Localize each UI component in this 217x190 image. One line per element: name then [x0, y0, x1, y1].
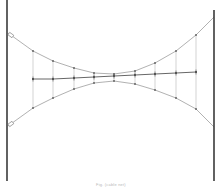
anchor-icons [8, 32, 14, 126]
node-marker [52, 60, 54, 62]
node-marker [175, 50, 177, 52]
node-marker [32, 50, 34, 52]
ties [33, 35, 196, 109]
nodes [32, 34, 197, 110]
node-marker [113, 80, 115, 82]
node-marker [154, 62, 156, 64]
lower-cable [8, 81, 214, 127]
node-marker [73, 67, 75, 69]
node-marker [93, 82, 95, 84]
node-marker [73, 88, 75, 90]
node-marker [32, 107, 34, 109]
node-marker [52, 97, 54, 99]
figure-caption: Fig. (cable net) [96, 182, 126, 187]
node-marker [134, 83, 136, 85]
anchor-clamp-icon [8, 32, 14, 37]
node-marker [134, 70, 136, 72]
upper-cable [8, 17, 214, 74]
cable-net-diagram [0, 0, 217, 190]
node-marker [93, 72, 95, 74]
node-marker [195, 34, 197, 36]
node-marker [154, 89, 156, 91]
node-marker [175, 97, 177, 99]
anchor-clamp-icon [8, 121, 14, 126]
node-marker [195, 108, 197, 110]
